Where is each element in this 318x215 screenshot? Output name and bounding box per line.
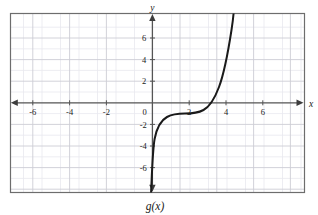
x-tick-label--4: -4 bbox=[66, 107, 74, 117]
x-tick-label-6: 6 bbox=[261, 107, 265, 117]
function-label: g(x) bbox=[146, 200, 165, 213]
y-tick-label--6: -6 bbox=[140, 163, 147, 173]
y-axis-label: y bbox=[149, 3, 155, 13]
y-tick-label-6: 6 bbox=[142, 33, 146, 43]
y-tick-label--4: -4 bbox=[140, 141, 148, 151]
x-tick-label-0: 0 bbox=[142, 107, 146, 117]
y-tick-label-2: 2 bbox=[142, 76, 146, 86]
x-axis-label: x bbox=[308, 99, 314, 109]
x-tick-label-2: 2 bbox=[187, 107, 191, 117]
x-tick-label--6: -6 bbox=[29, 107, 36, 117]
y-tick-label--2: -2 bbox=[140, 120, 147, 130]
x-tick-label--2: -2 bbox=[103, 107, 110, 117]
graph-figure: -6 -4 -2 0 2 4 6 6 4 2 -2 -4 -6 x y g(x) bbox=[0, 0, 318, 215]
coordinate-plane: -6 -4 -2 0 2 4 6 6 4 2 -2 -4 -6 x y g(x) bbox=[0, 0, 318, 215]
